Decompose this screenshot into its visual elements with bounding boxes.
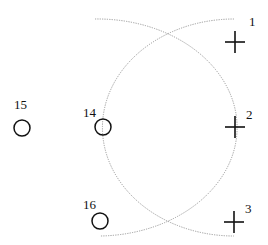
circle-label: 16 xyxy=(83,197,97,212)
circle-marker-16: 16 xyxy=(83,197,108,229)
cross-label: 2 xyxy=(246,107,253,122)
circle-shape xyxy=(14,120,30,136)
cross-marker-1: 1 xyxy=(225,14,256,53)
cross-marker-2: 2 xyxy=(225,107,253,138)
diagram-canvas: 123 151416 xyxy=(0,0,268,245)
cross-marker-3: 3 xyxy=(224,201,252,233)
dotted-arc-left-bulge xyxy=(102,19,234,236)
circle-shape xyxy=(92,213,108,229)
circle-marker-15: 15 xyxy=(14,97,30,136)
circle-label: 15 xyxy=(14,97,27,112)
circle-label: 14 xyxy=(83,105,97,120)
circle-marker-14: 14 xyxy=(83,105,111,135)
cross-label: 3 xyxy=(245,201,252,216)
cross-label: 1 xyxy=(249,14,256,29)
dotted-arc-right-bulge xyxy=(95,19,237,236)
